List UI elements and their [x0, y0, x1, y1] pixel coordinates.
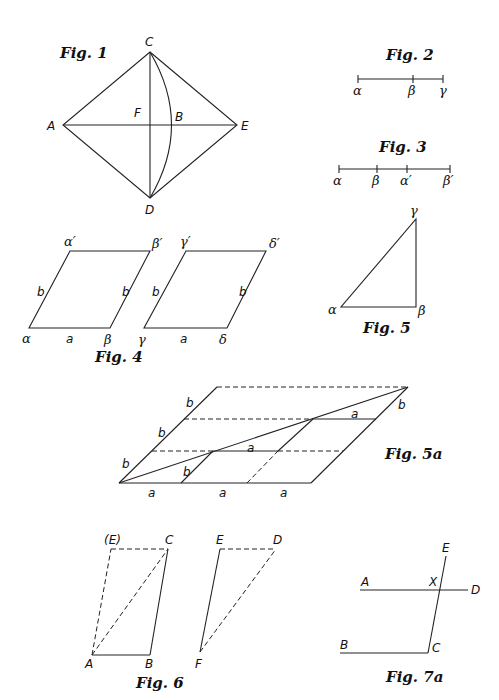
figure-5-title: Fig. 5: [362, 319, 411, 337]
figure-3: Fig. 3 α β α′ β′: [333, 138, 454, 188]
diagonal-ac-dashed: [92, 549, 168, 655]
point-label-c: C: [432, 641, 441, 655]
bottom-label-a-2: a: [219, 486, 226, 500]
point-label-delta-prime: δ′: [269, 236, 280, 251]
point-label-c: C: [145, 35, 154, 49]
segment-fd-dashed: [200, 549, 276, 652]
right-edge: [311, 387, 408, 483]
point-label-b: B: [340, 638, 348, 652]
point-label-e: E: [216, 533, 224, 547]
point-label-d: D: [273, 533, 282, 547]
bottom-label-a-3: a: [280, 486, 287, 500]
point-label-a: A: [84, 657, 93, 671]
side-label-b-right: b: [239, 285, 247, 299]
side-label-a: a: [180, 332, 187, 346]
side-label-b-right: b: [122, 285, 130, 299]
parallelogram-alpha-beta: [29, 251, 150, 328]
point-label-x: X: [428, 575, 438, 589]
point-label-b: B: [145, 657, 153, 671]
point-label-alpha-prime: α′: [64, 234, 76, 249]
left-label-b-mid: b: [158, 426, 166, 440]
point-label-gamma-prime: γ′: [180, 234, 191, 249]
point-label-c: C: [165, 533, 174, 547]
point-label-gamma: γ: [410, 203, 418, 218]
figure-5a: b b b b a a b a a a Fig. 5a: [119, 387, 442, 500]
line-ec: [428, 556, 446, 653]
point-label-alpha: α: [353, 83, 362, 98]
point-label-delta: δ: [219, 332, 227, 347]
point-label-beta: β: [407, 83, 416, 98]
side-label-b-left: b: [152, 285, 160, 299]
left-edge: [119, 387, 217, 483]
bottom-label-a-1: a: [148, 486, 155, 500]
right-triangle-alpha-beta-gamma: [341, 219, 416, 307]
figure-5: γ α β Fig. 5: [328, 203, 426, 337]
side-label-a: a: [66, 332, 73, 346]
inner-label-a-mid: a: [247, 441, 254, 455]
point-label-e: E: [442, 541, 450, 555]
point-label-gamma: γ: [439, 83, 447, 98]
point-label-alpha: α: [333, 173, 342, 188]
point-label-alpha: α: [22, 331, 31, 346]
figure-3-title: Fig. 3: [378, 138, 427, 156]
figure-7a-title: Fig. 7a: [385, 668, 443, 686]
figure-6-title: Fig. 6: [135, 674, 184, 692]
figure-4: α′ β′ b b α a β γ′ δ′ b b γ a δ Fig. 4: [22, 234, 280, 366]
point-label-f: F: [134, 106, 142, 120]
geometry-figures-canvas: Fig. 1 C A F B E D Fig. 2 α β γ Fig. 3 α…: [0, 0, 499, 700]
point-label-f: F: [195, 657, 203, 671]
segment-ae-dashed: [92, 549, 111, 655]
point-label-beta: β: [417, 303, 426, 318]
point-label-beta: β: [371, 173, 380, 188]
point-label-e: E: [241, 119, 249, 133]
figure-6: (E) C A B E D F Fig. 6: [84, 533, 282, 692]
parallelogram-gamma-delta: [144, 251, 266, 328]
right-label-b: b: [398, 398, 406, 412]
figure-4-title: Fig. 4: [94, 348, 143, 366]
figure-1-title: Fig. 1: [59, 44, 108, 62]
point-label-b: B: [175, 110, 183, 124]
inner-slant-2-dashed: [247, 451, 278, 483]
point-label-gamma: γ: [138, 332, 146, 347]
point-label-beta: β: [103, 332, 112, 347]
point-label-beta-prime: β′: [151, 236, 163, 251]
point-label-e-paren: (E): [104, 533, 121, 547]
figure-5a-title: Fig. 5a: [384, 445, 442, 463]
point-label-alpha-prime: α′: [400, 173, 412, 188]
figure-1: Fig. 1 C A F B E D: [46, 35, 249, 217]
segment-bc: [150, 549, 168, 655]
figure-2: Fig. 2 α β γ: [353, 46, 447, 98]
figure-7a: E A X D B C Fig. 7a: [340, 541, 480, 686]
left-label-b-top: b: [186, 396, 194, 410]
figure-2-title: Fig. 2: [385, 46, 434, 64]
point-label-alpha: α: [328, 302, 337, 317]
point-label-a: A: [46, 119, 55, 133]
point-label-a: A: [360, 575, 369, 589]
point-label-d: D: [145, 203, 154, 217]
inner-label-b: b: [183, 465, 191, 479]
segment-fe: [200, 549, 220, 652]
inner-label-a-top: a: [351, 407, 358, 421]
side-label-b-left: b: [37, 285, 45, 299]
point-label-d: D: [471, 583, 480, 597]
left-label-b-bottom: b: [122, 457, 130, 471]
point-label-beta-prime: β′: [442, 173, 454, 188]
